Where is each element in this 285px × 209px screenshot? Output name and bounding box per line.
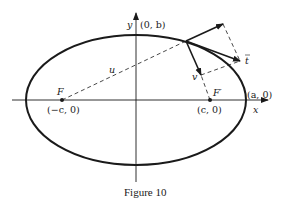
u-label: u [109, 64, 115, 75]
v-dashed-line [201, 75, 210, 100]
figure-caption: Figure 10 [124, 186, 167, 198]
y-axis-label: y [126, 19, 133, 30]
parallelogram-edge [201, 61, 240, 75]
x-axis-label: x [253, 104, 259, 115]
u-dashed-line [62, 41, 186, 100]
focus-left [60, 98, 64, 102]
right-focus-name: F′ [212, 87, 223, 98]
vector-outer [186, 24, 223, 41]
v-label: v [192, 71, 198, 82]
right-vertex-label: (a, 0) [247, 89, 272, 100]
right-focus-coord: (c, 0) [197, 104, 222, 115]
left-focus-coord: (−c, 0) [47, 104, 80, 115]
focus-right [208, 98, 212, 102]
ellipse-diagram: y (0, b) x (a, 0) F (−c, 0) F′ (c, 0) u … [0, 0, 285, 209]
left-focus-name: F [56, 86, 64, 97]
t-label: t [245, 55, 249, 66]
top-vertex-label: (0, b) [140, 19, 166, 30]
